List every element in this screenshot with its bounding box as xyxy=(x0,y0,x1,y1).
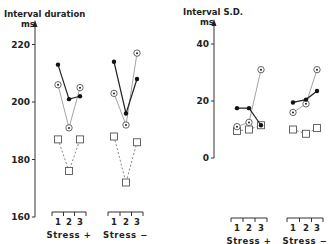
y-tick-label: 160 xyxy=(11,212,30,222)
group-label: Stress − xyxy=(103,230,148,240)
left-ylabel: Interval duration xyxy=(4,9,85,19)
square-marker xyxy=(77,136,84,143)
square-marker xyxy=(55,136,62,143)
filled-dot-marker xyxy=(67,97,71,101)
filled-dot-marker xyxy=(291,100,295,104)
x-tick-label: 3 xyxy=(134,217,140,227)
left-yunit: ms xyxy=(21,19,35,29)
filled-dot-marker xyxy=(247,106,251,110)
filled-dot-marker xyxy=(259,123,263,127)
filled-dot-marker xyxy=(235,106,239,110)
chart-svg: Interval duration ms 160180200220 123Str… xyxy=(0,0,328,244)
y-tick-label: 220 xyxy=(11,40,30,50)
right-panel: Interval S.D. ms 02040 123Stress +123Str… xyxy=(183,7,328,244)
x-tick-label: 1 xyxy=(111,217,117,227)
x-tick-label: 2 xyxy=(303,223,309,233)
y-tick-label: 0 xyxy=(203,153,209,163)
square-marker xyxy=(290,126,297,133)
y-tick-label: 20 xyxy=(196,96,209,106)
x-tick-label: 3 xyxy=(258,223,264,233)
square-marker xyxy=(123,179,130,186)
x-tick-label: 2 xyxy=(123,217,129,227)
x-tick-label: 1 xyxy=(55,217,61,227)
square-marker xyxy=(303,130,310,137)
square-marker xyxy=(314,125,321,132)
filled-dot-marker xyxy=(56,62,60,66)
y-tick-label: 180 xyxy=(11,155,30,165)
group-label: Stress + xyxy=(46,230,91,240)
filled-dot-marker xyxy=(112,60,116,64)
right-series xyxy=(234,66,321,137)
square-marker xyxy=(66,168,73,175)
y-tick-label: 40 xyxy=(196,39,209,49)
x-tick-label: 3 xyxy=(77,217,83,227)
right-y-ticks: 02040 xyxy=(196,39,214,163)
left-x-axis: 123Stress +123Stress − xyxy=(46,212,148,240)
right-ylabel: Interval S.D. xyxy=(183,7,243,17)
left-y-ticks: 160180200220 xyxy=(11,40,35,223)
x-tick-label: 1 xyxy=(234,223,240,233)
square-marker xyxy=(246,126,253,133)
square-marker xyxy=(111,133,118,140)
right-x-axis: 123Stress +123Stress − xyxy=(226,218,327,244)
x-tick-label: 2 xyxy=(66,217,72,227)
square-marker xyxy=(134,139,141,146)
left-series xyxy=(55,50,141,186)
figure: Interval duration ms 160180200220 123Str… xyxy=(0,0,328,244)
x-tick-label: 1 xyxy=(290,223,296,233)
filled-dot-marker xyxy=(78,94,82,98)
x-tick-label: 3 xyxy=(314,223,320,233)
filled-dot-marker xyxy=(304,97,308,101)
filled-dot-marker xyxy=(124,111,128,115)
x-tick-label: 2 xyxy=(246,223,252,233)
y-tick-label: 200 xyxy=(11,97,30,107)
group-label: Stress − xyxy=(282,236,327,244)
group-label: Stress + xyxy=(226,236,271,244)
filled-dot-marker xyxy=(135,77,139,81)
left-panel: Interval duration ms 160180200220 123Str… xyxy=(4,9,148,240)
filled-dot-marker xyxy=(315,89,319,93)
